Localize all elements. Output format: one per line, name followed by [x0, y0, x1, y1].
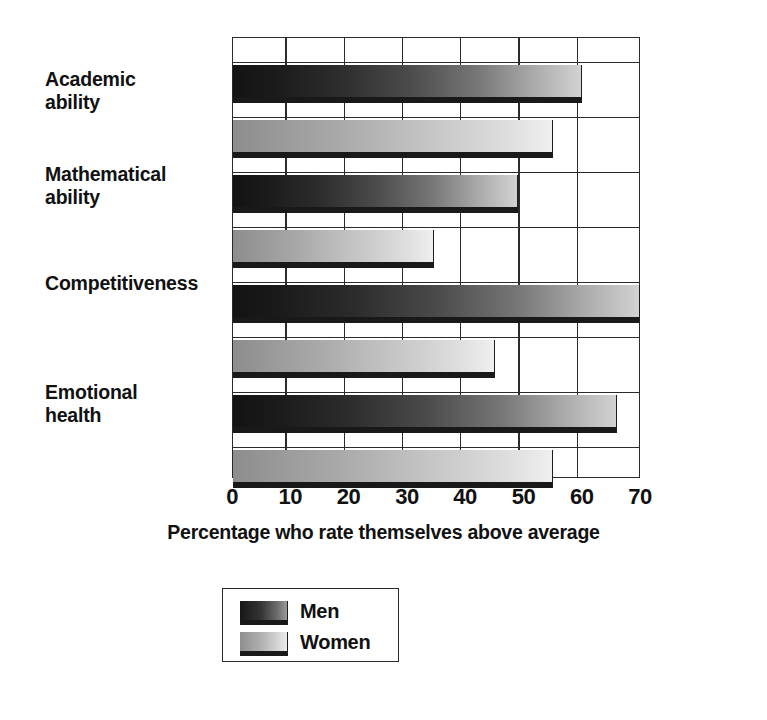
bar-shadow — [233, 427, 616, 433]
swatch-shadow — [240, 620, 287, 625]
x-axis-title: Percentage who rate themselves above ave… — [0, 521, 767, 544]
category-label-academic-ability: Academic ability — [45, 68, 136, 114]
bar-edge — [581, 65, 583, 103]
bar-women-mathematical-ability — [233, 230, 433, 262]
x-axis-tick-labels: 0 10 20 30 40 50 60 70 — [232, 484, 640, 514]
bars-layer — [233, 38, 639, 477]
bar-edge — [552, 450, 554, 488]
bar-shadow — [233, 152, 552, 158]
bar-shadow — [233, 372, 494, 378]
legend-label-women: Women — [300, 630, 370, 655]
bar-men-academic-ability — [233, 65, 581, 97]
bar-fill — [233, 285, 639, 317]
bar-shadow — [233, 97, 581, 103]
bar-men-competitiveness — [233, 285, 639, 317]
legend-swatch-men — [240, 601, 287, 620]
bar-chart-figure: Academic ability Mathematical ability Co… — [0, 0, 767, 720]
swatch-fill — [240, 601, 287, 620]
bar-edge — [616, 395, 618, 433]
swatch-fill — [240, 632, 287, 651]
swatch-edge — [287, 632, 289, 656]
bar-edge — [552, 120, 554, 158]
legend-item-men: Men — [240, 599, 390, 625]
bar-fill — [233, 340, 494, 372]
category-label-mathematical-ability: Mathematical ability — [45, 163, 166, 209]
bar-edge — [517, 175, 519, 213]
plot-area — [232, 37, 640, 478]
xtick-label-40: 40 — [453, 484, 476, 510]
xtick-label-60: 60 — [570, 484, 593, 510]
bar-fill — [233, 175, 517, 207]
bar-edge — [433, 230, 435, 268]
bar-women-competitiveness — [233, 340, 494, 372]
chart-legend: Men Women — [222, 588, 399, 662]
bar-edge — [639, 285, 641, 323]
xtick-label-10: 10 — [279, 484, 302, 510]
legend-item-women: Women — [240, 630, 390, 656]
bar-fill — [233, 395, 616, 427]
legend-label-men: Men — [300, 599, 339, 624]
bar-fill — [233, 450, 552, 482]
bar-fill — [233, 120, 552, 152]
xtick-label-70: 70 — [628, 484, 651, 510]
xtick-label-50: 50 — [512, 484, 535, 510]
xtick-label-30: 30 — [395, 484, 418, 510]
bar-fill — [233, 230, 433, 262]
xtick-label-0: 0 — [226, 484, 238, 510]
bar-edge — [494, 340, 496, 378]
category-label-competitiveness: Competitiveness — [45, 272, 198, 295]
bar-men-emotional-health — [233, 395, 616, 427]
bar-men-mathematical-ability — [233, 175, 517, 207]
xtick-label-20: 20 — [337, 484, 360, 510]
bar-women-emotional-health — [233, 450, 552, 482]
legend-swatch-women — [240, 632, 287, 651]
swatch-edge — [287, 601, 289, 625]
bar-shadow — [233, 207, 517, 213]
bar-shadow — [233, 262, 433, 268]
bar-fill — [233, 65, 581, 97]
swatch-shadow — [240, 651, 287, 656]
category-label-emotional-health: Emotional health — [45, 381, 137, 427]
bar-women-academic-ability — [233, 120, 552, 152]
bar-shadow — [233, 317, 639, 323]
